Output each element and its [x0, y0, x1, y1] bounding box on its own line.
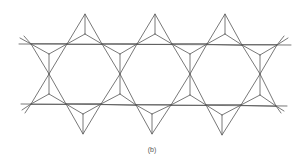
- lower-up-tetrahedron: [171, 74, 206, 105]
- lower-up-tetrahedron: [101, 74, 136, 105]
- edge-stroke: [276, 106, 281, 113]
- bottom-tetrahedron: [136, 105, 171, 134]
- edge-stroke: [25, 104, 31, 113]
- edge-stroke: [277, 36, 284, 45]
- upper-down-tetrahedron: [102, 44, 137, 74]
- top-tetrahedron: [67, 14, 102, 44]
- upper-down-tetrahedron: [31, 44, 67, 74]
- figure-caption: (b): [0, 146, 304, 153]
- upper-down-tetrahedron: [242, 45, 277, 74]
- upper-down-tetrahedron: [172, 44, 207, 74]
- edge-stroke: [277, 38, 288, 45]
- edge-stroke: [276, 106, 284, 111]
- edge-stroke: [24, 36, 31, 44]
- lower-up-tetrahedron: [31, 74, 66, 104]
- lattice-diagram: [0, 0, 304, 163]
- top-tetrahedron: [207, 14, 242, 45]
- lower-up-tetrahedron: [241, 74, 276, 106]
- bottom-tetrahedron: [206, 105, 241, 135]
- edge-stroke: [20, 38, 31, 44]
- top-tetrahedron: [137, 14, 172, 44]
- bottom-tetrahedron: [66, 104, 101, 134]
- edge-stroke: [22, 104, 31, 110]
